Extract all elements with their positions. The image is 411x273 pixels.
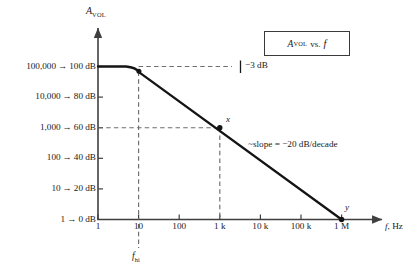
y-tick-gain-1000: 1,000 bbox=[40, 122, 61, 132]
arrow-icon: → bbox=[61, 91, 74, 101]
y-tick-gain-100: 100 bbox=[47, 153, 61, 163]
y-tick-label-60db: 1,000→60 dB bbox=[40, 123, 96, 132]
y-tick-gain-1: 1 bbox=[61, 214, 66, 224]
y-axis-title: AVOL bbox=[86, 6, 106, 18]
arrow-icon: → bbox=[61, 183, 74, 193]
y-tick-db-40: 40 dB bbox=[74, 153, 96, 163]
y-tick-gain-10: 10 bbox=[51, 183, 60, 193]
title-freq-symbol: f bbox=[323, 38, 326, 49]
point-x-label: x bbox=[226, 115, 230, 124]
title-gain-subscript: VOL bbox=[293, 40, 307, 47]
y-tick-db-80: 80 dB bbox=[74, 91, 96, 101]
y-tick-gain-10000: 10,000 bbox=[35, 91, 60, 101]
x-tick-label-1k: 1 k bbox=[214, 222, 225, 231]
cutoff-frequency-label: fhi bbox=[132, 252, 140, 263]
y-axis-title-subscript: VOL bbox=[92, 11, 106, 18]
y-tick-label-0db: 1→0 dB bbox=[61, 215, 96, 224]
y-tick-label-100db: 100,000→100 dB bbox=[26, 62, 96, 71]
dashed-guides bbox=[99, 67, 233, 249]
y-tick-gain-100000: 100,000 bbox=[26, 61, 56, 71]
x-tick-label-1: 1 bbox=[96, 222, 101, 231]
y-tick-db-100: 100 dB bbox=[69, 61, 96, 71]
y-tick-db-60: 60 dB bbox=[74, 122, 96, 132]
minus-3db-label: −3 dB bbox=[245, 61, 268, 70]
point-y-label: y bbox=[345, 203, 349, 212]
slope-annotation-label: ~slope = −20 dB/decade bbox=[248, 140, 338, 149]
x-tick-label-100: 100 bbox=[172, 222, 186, 231]
marker-break-point bbox=[136, 69, 141, 74]
y-tick-label-40db: 100→40 dB bbox=[47, 154, 96, 163]
axes bbox=[97, 28, 382, 220]
y-tick-label-80db: 10,000→80 dB bbox=[35, 92, 96, 101]
arrow-icon: → bbox=[65, 214, 78, 224]
title-box: AVOLvs.f bbox=[264, 31, 350, 56]
marker-point-x bbox=[217, 125, 222, 130]
title-vs: vs. bbox=[307, 39, 323, 49]
y-tick-db-20: 20 dB bbox=[74, 183, 96, 193]
y-tick-label-20db: 10→20 dB bbox=[51, 184, 96, 193]
x-axis-title: f, Hz bbox=[385, 222, 403, 231]
y-tick-db-0: 0 dB bbox=[78, 214, 96, 224]
arrow-icon: → bbox=[61, 122, 74, 132]
x-tick-label-1M: 1 M bbox=[334, 222, 349, 231]
arrow-icon: → bbox=[56, 61, 69, 71]
x-tick-label-10: 10 bbox=[134, 222, 143, 231]
cutoff-subscript: hi bbox=[135, 256, 140, 263]
x-tick-label-10k: 10 k bbox=[252, 222, 268, 231]
arrow-icon: → bbox=[61, 153, 74, 163]
x-tick-label-100k: 100 k bbox=[291, 222, 312, 231]
x-axis-unit: Hz bbox=[392, 221, 403, 231]
